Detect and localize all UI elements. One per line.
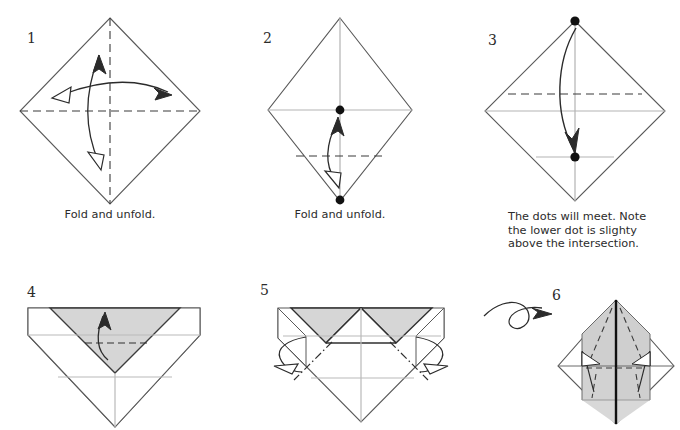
step-3-caption: The dots will meet. Note the lower dot i… [508, 210, 678, 251]
lower-left-shaded-panel [582, 366, 616, 400]
step-5-figure [236, 280, 486, 430]
step-4-figure [0, 272, 240, 430]
turn-over-arrow-head [532, 308, 552, 319]
left-fold-arrow-hollow-head [274, 364, 298, 374]
step-2-caption: Fold and unfold. [265, 208, 415, 222]
step-1-caption: Fold and unfold. [35, 208, 185, 222]
step-4: 4 [0, 272, 240, 430]
lower-center-shaded-panel [616, 366, 650, 400]
origami-diagram-page: 1 Fold and unfold. 2 [0, 0, 680, 430]
step-1: 1 Fold and unfold. [0, 0, 240, 230]
step-6-figure [552, 294, 680, 430]
reference-dot-center [336, 106, 345, 115]
reference-dot-lower [570, 152, 579, 161]
step-2-figure [240, 0, 470, 205]
step-2: 2 Fold and unfold. [240, 0, 470, 230]
reference-dot-top [570, 16, 579, 25]
step-3: 3 The dots will meet. Note the lower dot… [460, 0, 680, 260]
step-5: 5 [236, 280, 486, 430]
step-3-figure [460, 0, 680, 205]
step-1-figure [0, 0, 240, 200]
reference-dot-bottom [336, 196, 345, 205]
step-6: 6 [480, 280, 680, 430]
turn-over-loop-shaft [484, 303, 542, 329]
right-fold-arrow-hollow-head [424, 364, 448, 374]
